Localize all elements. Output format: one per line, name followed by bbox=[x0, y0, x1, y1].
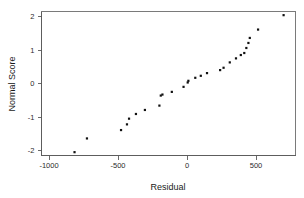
x-tick-label: 0 bbox=[185, 161, 189, 170]
y-tick-label: 0 bbox=[30, 79, 34, 88]
data-point bbox=[240, 54, 242, 56]
data-point bbox=[161, 93, 163, 95]
y-axis-ticks bbox=[38, 17, 42, 151]
data-point bbox=[187, 80, 189, 82]
x-axis-ticks bbox=[49, 156, 256, 160]
plot-frame bbox=[42, 12, 296, 156]
data-point bbox=[73, 151, 75, 153]
y-tick-label: 2 bbox=[30, 12, 34, 21]
data-point bbox=[182, 86, 184, 88]
data-point bbox=[222, 67, 224, 69]
x-tick-label: -500 bbox=[110, 161, 125, 170]
data-point bbox=[247, 42, 249, 44]
data-point bbox=[235, 57, 237, 59]
data-point bbox=[86, 137, 88, 139]
data-point bbox=[171, 91, 173, 93]
data-point bbox=[135, 113, 137, 115]
scatter-plot: -2-1012 -1000-5000500 Residual Normal Sc… bbox=[0, 0, 304, 198]
data-point bbox=[200, 75, 202, 77]
data-point bbox=[194, 77, 196, 79]
data-point bbox=[229, 61, 231, 63]
data-point bbox=[144, 109, 146, 111]
y-tick-label: -2 bbox=[28, 146, 35, 155]
x-axis-title: Residual bbox=[150, 182, 185, 192]
data-point bbox=[120, 129, 122, 131]
y-axis-title: Normal Score bbox=[7, 56, 17, 111]
data-point bbox=[206, 72, 208, 74]
data-point bbox=[243, 52, 245, 54]
data-point bbox=[219, 69, 221, 71]
data-point bbox=[126, 123, 128, 125]
x-tick-label: -1000 bbox=[39, 161, 58, 170]
data-point bbox=[249, 37, 251, 39]
x-tick-label: 500 bbox=[250, 161, 263, 170]
y-axis-tick-labels: -2-1012 bbox=[28, 12, 35, 155]
data-point bbox=[245, 47, 247, 49]
y-tick-label: 1 bbox=[30, 46, 34, 55]
data-point bbox=[158, 105, 160, 107]
y-tick-label: -1 bbox=[28, 113, 35, 122]
x-axis-tick-labels: -1000-5000500 bbox=[39, 161, 262, 170]
data-points-layer bbox=[73, 14, 284, 153]
data-point bbox=[128, 118, 130, 120]
chart-figure: -2-1012 -1000-5000500 Residual Normal Sc… bbox=[0, 0, 304, 198]
data-point bbox=[257, 28, 259, 30]
data-point bbox=[283, 14, 285, 16]
